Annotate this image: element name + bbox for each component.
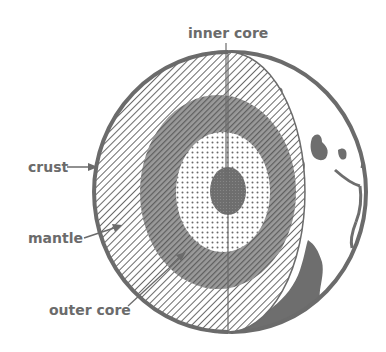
cutaway-face (94, 52, 305, 332)
label-mantle: mantle (28, 230, 83, 246)
label-inner-core: inner core (188, 25, 268, 41)
label-crust: crust (28, 159, 69, 175)
label-outer-core: outer core (49, 302, 131, 318)
label-crust-group: crust (28, 159, 98, 175)
earth-layers-diagram: inner core crust mantle outer core (0, 0, 386, 352)
